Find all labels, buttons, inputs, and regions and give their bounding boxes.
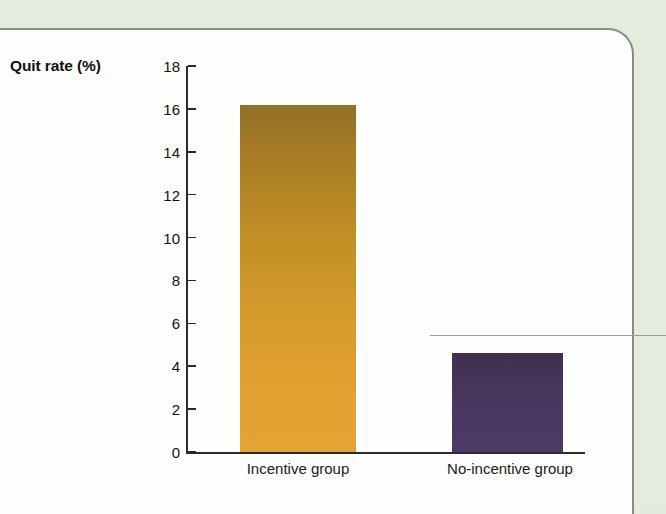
y-tick-label: 4 [140, 358, 180, 375]
y-tick-mark [188, 194, 196, 196]
y-tick-mark [188, 108, 196, 110]
y-tick-label: 18 [140, 58, 180, 75]
y-tick-label: 16 [140, 100, 180, 117]
y-tick-mark [188, 237, 196, 239]
y-tick-label: 0 [140, 444, 180, 461]
y-tick-label: 12 [140, 186, 180, 203]
y-tick-mark [188, 408, 196, 410]
y-axis-tick-labels: 024681012141618 [132, 0, 180, 504]
y-tick-label: 14 [140, 143, 180, 160]
y-tick-mark [188, 151, 196, 153]
y-axis-title: Quit rate (%) [10, 57, 101, 75]
bar-incentive-group [240, 105, 356, 452]
y-tick-label: 2 [140, 401, 180, 418]
y-axis-line [186, 66, 188, 454]
y-tick-label: 10 [140, 229, 180, 246]
x-axis-line [186, 452, 585, 454]
y-tick-label: 6 [140, 315, 180, 332]
x-axis-label-incentive-group: Incentive group [216, 460, 380, 477]
y-tick-mark [188, 365, 196, 367]
y-tick-mark [188, 451, 196, 453]
y-tick-mark [188, 65, 196, 67]
bar-no-incentive-group [452, 353, 563, 452]
y-tick-mark [188, 323, 196, 325]
y-tick-label: 8 [140, 272, 180, 289]
x-axis-label-no-incentive-group: No-incentive group [420, 460, 600, 477]
y-tick-mark [188, 280, 196, 282]
